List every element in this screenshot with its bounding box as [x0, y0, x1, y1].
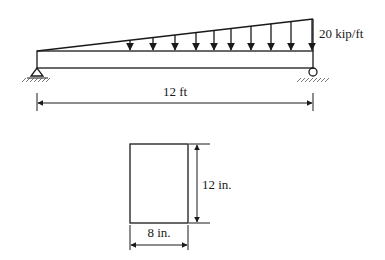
beam: [37, 51, 313, 68]
span-dimension: 12 ft: [37, 84, 313, 111]
load-arrows: [130, 19, 312, 50]
width-label: 8 in.: [147, 225, 170, 240]
cross-section: 12 in. 8 in.: [130, 144, 232, 250]
cross-section-rectangle: [130, 144, 188, 223]
height-label: 12 in.: [202, 177, 232, 192]
span-label: 12 ft: [163, 84, 188, 99]
distributed-load: [37, 19, 313, 51]
beam-diagram: 20 kip/ft 12 ft 12 in. 8 in.: [0, 0, 385, 260]
roller-support-icon: [297, 68, 329, 82]
pin-support-icon: [22, 68, 50, 82]
load-label: 20 kip/ft: [319, 26, 364, 41]
